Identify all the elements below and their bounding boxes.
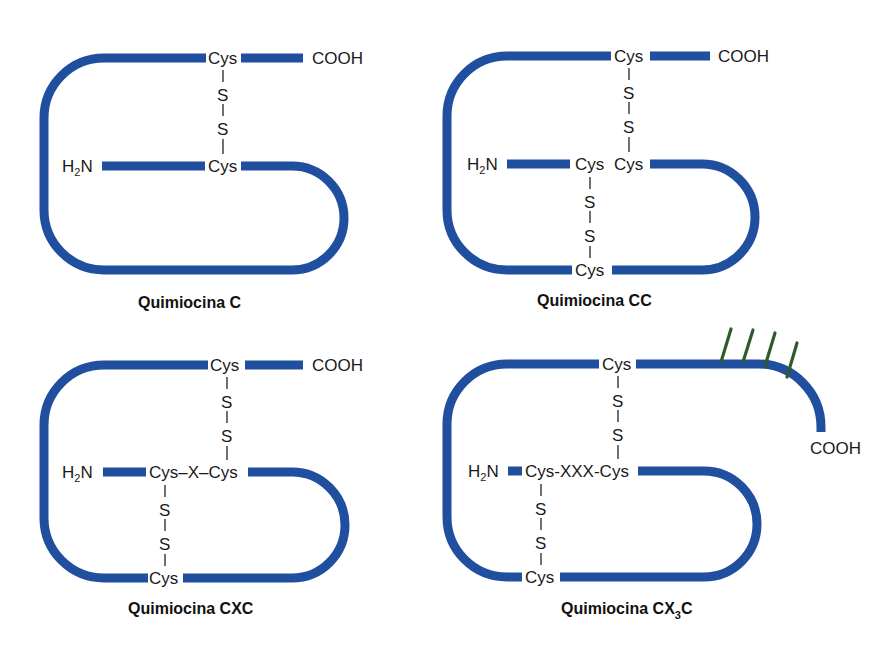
panel-title: Quimiocina CC [537,292,652,309]
cooh-label: COOH [312,49,363,68]
cys-xxx-cys-label: Cys-XXX-Cys [525,462,629,481]
sulfur-label: S [584,193,595,212]
sulfur-label: S [584,227,595,246]
glycosylation-mark [743,330,753,362]
sulfur-label: S [217,120,228,139]
panel-title: Quimiocina CXC [128,600,254,617]
sulfur-label: S [612,426,623,445]
cys-middle-right-label: Cys [614,155,643,174]
h2n-label: H2N [62,463,93,484]
panel-chemokine-cc: Cys COOH Cys Cys Cys H2N S S S S Quimioc… [447,47,769,309]
sulfur-label: S [221,427,232,446]
panel-title: Quimiocina CX3C [561,600,693,621]
sulfur-label: S [623,84,634,103]
sulfur-label: S [217,86,228,105]
h2n-label: H2N [468,462,499,483]
sulfur-label: S [159,535,170,554]
cys-top-label: Cys [208,49,237,68]
h2n-label: H2N [62,157,93,178]
cys-middle-label: Cys [208,157,237,176]
cys-top-label: Cys [602,355,631,374]
cys-bottom-label: Cys [575,261,604,280]
peptide-chain-loop [183,472,345,578]
peptide-chain-loop [612,164,755,270]
sulfur-label: S [535,534,546,553]
cys-bottom-label: Cys [525,568,554,587]
sulfur-label: S [535,500,546,519]
c-terminal-tail [636,364,821,432]
cooh-label: COOH [312,356,363,375]
cys-top-label: Cys [614,47,643,66]
panel-chemokine-cxc: Cys COOH Cys–X–Cys Cys H2N S S S S Quimi… [44,356,363,617]
cys-x-cys-label: Cys–X–Cys [149,463,238,482]
cooh-label: COOH [810,439,861,458]
cys-bottom-label: Cys [149,569,178,588]
panel-chemokine-c: Cys COOH Cys H2N S S Quimiocina C [44,49,363,311]
cys-top-label: Cys [210,356,239,375]
sulfur-label: S [623,118,634,137]
chemokine-structure-diagram: Cys COOH Cys H2N S S Quimiocina C Cys CO… [0,0,892,646]
panel-chemokine-cx3c: Cys COOH Cys-XXX-Cys Cys H2N S S S S Qui… [447,329,861,621]
peptide-chain-loop [560,471,757,577]
sulfur-label: S [221,393,232,412]
sulfur-label: S [612,392,623,411]
sulfur-label: S [159,501,170,520]
glycosylation-mark [721,329,731,362]
cooh-label: COOH [718,47,769,66]
h2n-label: H2N [467,155,498,176]
panel-title: Quimiocina C [138,294,242,311]
cys-middle-left-label: Cys [575,155,604,174]
